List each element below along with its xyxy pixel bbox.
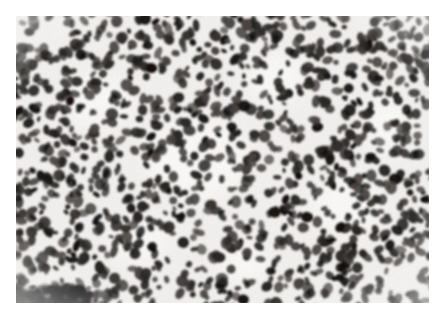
page-root: Grayscale histopathology micrograph show… xyxy=(0,0,446,320)
grain-overlay xyxy=(16,16,429,303)
histopathology-micrograph xyxy=(16,16,429,303)
micrograph-canvas xyxy=(16,16,429,303)
